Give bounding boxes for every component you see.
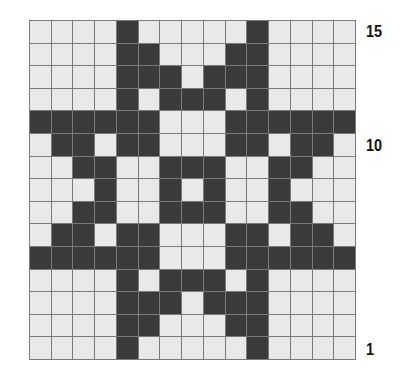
chart-cell bbox=[204, 111, 225, 133]
chart-cell bbox=[247, 270, 268, 292]
chart-cell bbox=[160, 247, 181, 269]
chart-cell bbox=[117, 202, 138, 224]
chart-cell bbox=[247, 292, 268, 314]
chart-cell bbox=[334, 337, 355, 359]
chart-cell bbox=[160, 337, 181, 359]
chart-cell bbox=[291, 224, 312, 246]
chart-cell bbox=[269, 44, 290, 66]
chart-cell bbox=[334, 44, 355, 66]
chart-cell bbox=[313, 270, 334, 292]
chart-cell bbox=[139, 157, 160, 179]
chart-cell bbox=[247, 224, 268, 246]
chart-cell bbox=[73, 315, 94, 337]
chart-cell bbox=[30, 89, 51, 111]
chart-cell bbox=[73, 89, 94, 111]
chart-cell bbox=[291, 202, 312, 224]
chart-cell bbox=[291, 89, 312, 111]
chart-cell bbox=[247, 179, 268, 201]
chart-cell bbox=[30, 111, 51, 133]
chart-cell bbox=[226, 337, 247, 359]
chart-cell bbox=[269, 337, 290, 359]
chart-cell bbox=[139, 111, 160, 133]
chart-cell bbox=[117, 224, 138, 246]
chart-cell bbox=[291, 66, 312, 88]
chart-cell bbox=[30, 292, 51, 314]
chart-cell bbox=[52, 292, 73, 314]
chart-cell bbox=[291, 21, 312, 43]
chart-cell bbox=[182, 111, 203, 133]
chart-cell bbox=[247, 89, 268, 111]
chart-cell bbox=[95, 247, 116, 269]
chart-cell bbox=[226, 202, 247, 224]
chart-cell bbox=[117, 66, 138, 88]
chart-cell bbox=[117, 44, 138, 66]
chart-cell bbox=[160, 315, 181, 337]
chart-cell bbox=[226, 66, 247, 88]
chart-cell bbox=[139, 315, 160, 337]
chart-cell bbox=[73, 202, 94, 224]
chart-cell bbox=[73, 179, 94, 201]
chart-cell bbox=[204, 337, 225, 359]
chart-cell bbox=[52, 134, 73, 156]
chart-cell bbox=[73, 134, 94, 156]
chart-cell bbox=[95, 315, 116, 337]
chart-cell bbox=[52, 157, 73, 179]
chart-cell bbox=[334, 134, 355, 156]
chart-cell bbox=[247, 337, 268, 359]
row-label-15: 15 bbox=[366, 22, 382, 42]
chart-cell bbox=[226, 179, 247, 201]
chart-cell bbox=[182, 66, 203, 88]
chart-cell bbox=[95, 292, 116, 314]
chart-cell bbox=[52, 247, 73, 269]
chart-cell bbox=[313, 315, 334, 337]
chart-cell bbox=[160, 270, 181, 292]
row-label-10: 10 bbox=[366, 136, 382, 156]
chart-cell bbox=[160, 111, 181, 133]
chart-cell bbox=[30, 270, 51, 292]
chart-cell bbox=[226, 224, 247, 246]
chart-cell bbox=[313, 157, 334, 179]
chart-cell bbox=[95, 89, 116, 111]
chart-cell bbox=[95, 134, 116, 156]
chart-cell bbox=[95, 270, 116, 292]
chart-cell bbox=[182, 179, 203, 201]
chart-cell bbox=[334, 21, 355, 43]
chart-cell bbox=[204, 134, 225, 156]
chart-cell bbox=[247, 66, 268, 88]
chart-cell bbox=[313, 292, 334, 314]
chart-cell bbox=[182, 292, 203, 314]
row-label-1: 1 bbox=[366, 340, 374, 360]
chart-cell bbox=[269, 179, 290, 201]
chart-cell bbox=[269, 21, 290, 43]
chart-cell bbox=[139, 21, 160, 43]
chart-cell bbox=[291, 270, 312, 292]
chart-cell bbox=[160, 89, 181, 111]
chart-cell bbox=[52, 270, 73, 292]
chart-cell bbox=[313, 44, 334, 66]
chart-cell bbox=[269, 315, 290, 337]
chart-cell bbox=[226, 247, 247, 269]
chart-cell bbox=[182, 270, 203, 292]
chart-cell bbox=[182, 134, 203, 156]
chart-cell bbox=[73, 44, 94, 66]
chart-cell bbox=[117, 111, 138, 133]
chart-cell bbox=[291, 44, 312, 66]
chart-cell bbox=[334, 89, 355, 111]
chart-cell bbox=[30, 247, 51, 269]
chart-cell bbox=[204, 315, 225, 337]
chart-cell bbox=[95, 21, 116, 43]
chart-cell bbox=[117, 21, 138, 43]
chart-cell bbox=[291, 315, 312, 337]
chart-cell bbox=[182, 224, 203, 246]
chart-cell bbox=[204, 247, 225, 269]
chart-cell bbox=[204, 44, 225, 66]
chart-cell bbox=[334, 315, 355, 337]
chart-cell bbox=[334, 66, 355, 88]
chart-cell bbox=[269, 66, 290, 88]
chart-cell bbox=[269, 111, 290, 133]
chart-cell bbox=[117, 315, 138, 337]
chart-cell bbox=[139, 270, 160, 292]
chart-cell bbox=[247, 111, 268, 133]
chart-cell bbox=[334, 111, 355, 133]
chart-cell bbox=[334, 202, 355, 224]
